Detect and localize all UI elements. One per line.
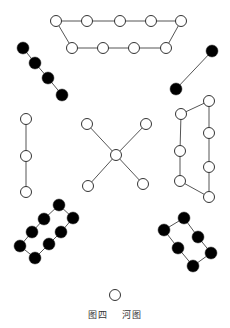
- white-dot: [21, 151, 32, 162]
- white-dot: [175, 176, 186, 187]
- connector-line: [23, 48, 62, 95]
- spoke-line: [87, 124, 116, 155]
- black-dot: [38, 213, 50, 225]
- white-dot: [204, 162, 215, 173]
- black-dot: [29, 252, 41, 264]
- hetu-diagram: [0, 0, 230, 328]
- bottom-left-black-dots: [14, 199, 79, 264]
- white-dot: [141, 119, 152, 130]
- white-dot: [21, 187, 32, 198]
- black-dot: [42, 72, 54, 84]
- white-dot: [146, 16, 157, 27]
- white-dot: [83, 181, 94, 192]
- black-dot: [56, 89, 68, 101]
- connector-line: [164, 218, 211, 266]
- white-dot: [138, 179, 149, 190]
- white-dot: [176, 109, 187, 120]
- black-dot: [192, 231, 204, 243]
- white-dot: [204, 128, 215, 139]
- black-dot: [187, 260, 199, 272]
- black-dot: [26, 226, 38, 238]
- connector-line: [176, 51, 212, 89]
- white-dot: [204, 192, 215, 203]
- bottom-right-black-dots: [158, 212, 217, 272]
- top-right-black-lines: [176, 51, 212, 89]
- dots-layer: [14, 16, 218, 301]
- black-dot: [17, 42, 29, 54]
- black-dot: [53, 199, 65, 211]
- white-dot: [51, 16, 62, 27]
- black-dot: [206, 45, 218, 57]
- black-dot: [172, 242, 184, 254]
- caption-figure-label: 图四: [88, 310, 108, 320]
- black-dot: [67, 212, 79, 224]
- white-dot: [204, 96, 215, 107]
- white-dot: [111, 150, 122, 161]
- white-dot: [176, 16, 187, 27]
- bottom-single-white-dots: [110, 290, 121, 301]
- black-dot: [205, 247, 217, 259]
- white-dot: [82, 16, 93, 27]
- black-dot: [170, 83, 182, 95]
- white-dot: [82, 119, 93, 130]
- bottom-right-black-lines: [164, 218, 211, 266]
- black-dot: [43, 238, 55, 250]
- white-dot: [161, 43, 172, 54]
- white-dot: [21, 114, 32, 125]
- black-dot: [158, 224, 170, 236]
- top-left-black-lines: [23, 48, 62, 95]
- figure-caption: 图四 河图: [0, 308, 230, 321]
- caption-title: 河图: [122, 310, 142, 320]
- black-dot: [29, 57, 41, 69]
- black-dot: [178, 212, 190, 224]
- spoke-line: [116, 124, 146, 155]
- black-dot: [14, 240, 26, 252]
- white-dot: [98, 43, 109, 54]
- white-dot: [175, 146, 186, 157]
- black-dot: [55, 226, 67, 238]
- white-dot: [110, 290, 121, 301]
- white-dot: [129, 43, 140, 54]
- connector-lines: [20, 21, 212, 266]
- white-dot: [67, 43, 78, 54]
- spoke-line: [88, 155, 116, 186]
- white-dot: [115, 16, 126, 27]
